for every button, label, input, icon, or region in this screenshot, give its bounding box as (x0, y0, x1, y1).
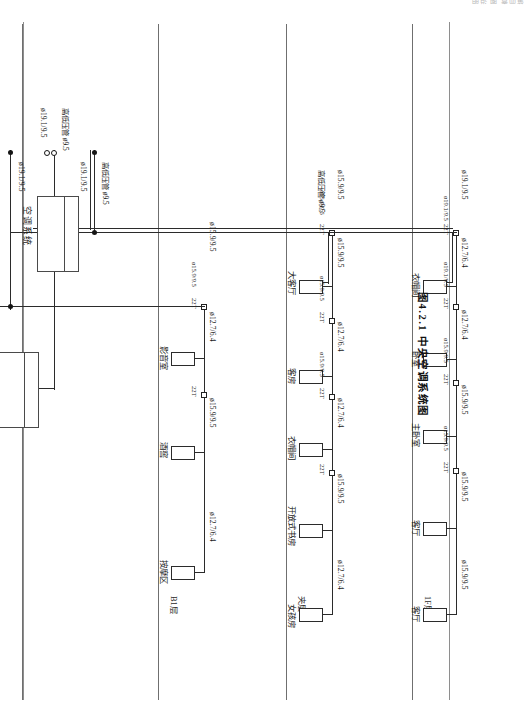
trunk-size-b1: ø15.9/9.5 (208, 222, 216, 252)
branch-tee-label-mezz-4: 22T (318, 464, 325, 475)
trunk-size-1f: ø19.1/9.5 (460, 170, 468, 200)
pipe-mezz-drop-4 (323, 530, 333, 531)
indoor-unit-mezz-3[interactable] (299, 443, 323, 457)
room-label-b1-1: 影音室 (159, 346, 167, 370)
indoor-unit-b1-3[interactable] (171, 566, 195, 580)
branch-tee-label-mezz-2: 22T (318, 312, 325, 323)
trunk-note-mezz: 高低压管 ø9.5 (318, 170, 325, 213)
trunk-size-plant-3: ø19.1/9.5 (17, 162, 25, 192)
riser-1f-main-2 (33, 228, 453, 229)
junction-node-riser-mezz (92, 230, 97, 235)
pipe-size-1f-4: ø15.9/9.5 (460, 472, 468, 502)
pipe-1f-drop-5 (447, 614, 457, 615)
room-label-1f-3: 主卧室 (411, 423, 419, 447)
room-label-mezz-5: 女孩房 (287, 604, 295, 628)
pipe-size-1f-2: ø12.7/6.4 (460, 310, 468, 340)
branch-tee-label-1f-3: 22T (442, 374, 449, 385)
branch-tee-b1-2 (201, 392, 207, 398)
pipe-size-mezz-4: ø15.9/9.5 (336, 474, 344, 504)
outdoor-unit-1-divider (64, 197, 65, 271)
pipe-mezz-riser (332, 232, 333, 615)
trunk-note-plant-1: 高低压管 ø9.5 (102, 162, 109, 205)
indoor-unit-1f-4[interactable] (423, 522, 447, 536)
branch-size-1f-3: ø15.9/9.5 (442, 338, 449, 363)
trunk-note-plant-2: 高低压管 ø9.5 (62, 108, 69, 151)
pipe-size-mezz-2: ø12.7/6.4 (336, 322, 344, 352)
riser-b1-main (0, 306, 205, 307)
outdoor-unit-2[interactable] (0, 352, 39, 428)
pipe-size-mezz-3: ø12.7/6.4 (336, 398, 344, 428)
pipe-size-b1-1: ø12.7/6.4 (208, 312, 216, 342)
figure-caption: 图4.2.1 中央空调系统图 (416, 292, 431, 417)
room-label-b1-3: 按摩区 (159, 560, 167, 584)
branch-size-1f-2: ø19.1/9.5 (442, 262, 449, 287)
room-label-mezz-4: 开放式书房 (287, 506, 295, 546)
branch-tee-label-1f-4: 22T (442, 462, 449, 473)
header-pipe-1 (94, 150, 95, 234)
branch-size-mezz-3: ø15.9/9.5 (318, 352, 325, 377)
junction-node-3 (44, 150, 50, 156)
floor-label-b1: B1层 (169, 596, 177, 614)
pipe-mezz-drop-3 (323, 449, 333, 450)
pipe-size-1f-3: ø15.9/9.5 (460, 385, 468, 415)
pipe-1f-riser (456, 232, 457, 615)
pipe-size-b1-3: ø12.7/6.4 (208, 512, 216, 542)
pipe-1f-drop-4 (447, 528, 457, 529)
indoor-unit-b1-1[interactable] (171, 352, 195, 366)
branch-tee-1f-3 (453, 380, 459, 386)
equipment-label-1: 空调系统 (22, 206, 31, 246)
header-pipe-3 (10, 150, 11, 310)
pipe-b1-riser (204, 306, 205, 573)
pipe-1f-riser-2 (452, 232, 453, 282)
pipe-b1-drop-3 (195, 572, 205, 573)
branch-size-1f-1: ø19.1/9.5 (442, 196, 449, 221)
junction-node-1 (92, 150, 97, 155)
running-header: 第四章 图 说明 (470, 0, 524, 6)
branch-tee-mezz-4 (329, 470, 335, 476)
branch-size-b1-1: ø15.9/9.5 (190, 262, 197, 287)
room-label-mezz-2: 客房 (287, 368, 295, 384)
room-label-mezz-3: 衣帽间 (287, 436, 295, 460)
branch-tee-label-mezz-3: 22T (318, 388, 325, 399)
indoor-unit-1f-5[interactable] (423, 608, 447, 622)
pipe-b1-drop-2 (195, 452, 205, 453)
indoor-unit-mezz-5[interactable] (299, 608, 323, 622)
pipe-size-mezz-5: ø12.7/6.4 (336, 560, 344, 590)
room-label-1f-5: 客厅 (411, 606, 419, 622)
room-label-b1-2: 酒窖 (159, 442, 167, 458)
branch-tee-1f-4 (453, 468, 459, 474)
branch-tee-mezz-3 (329, 394, 335, 400)
branch-tee-label-1f-2: 22T (442, 298, 449, 309)
outdoor-unit-1[interactable] (37, 196, 79, 272)
trunk-size-plant-1: ø19.1/9.5 (79, 162, 87, 192)
pipe-mezz-drop-5 (323, 614, 333, 615)
room-label-mezz-1: 大客厅 (287, 271, 295, 295)
branch-tee-mezz-2 (329, 318, 335, 324)
pipe-size-b1-2: ø15.9/9.5 (208, 398, 216, 428)
branch-tee-label-b1-2: 22T (190, 386, 197, 397)
indoor-unit-mezz-4[interactable] (299, 524, 323, 538)
header-drop-2 (39, 388, 55, 389)
junction-node-2 (51, 150, 57, 156)
indoor-unit-b1-2[interactable] (171, 446, 195, 460)
junction-node-riser-b1 (8, 304, 13, 309)
pipe-size-1f-5: ø15.9/9.5 (460, 560, 468, 590)
floor-divider-mezz (286, 24, 287, 700)
branch-size-mezz-2: ø15.9/9.5 (318, 276, 325, 301)
room-label-1f-4: 客厅 (411, 520, 419, 536)
trunk-size-plant-2: ø19.1/9.5 (39, 108, 47, 138)
pipe-mezz-riser-2 (328, 232, 329, 284)
pipe-size-1f-1: ø12.7/6.4 (460, 238, 468, 268)
trunk-size-mezz: ø15.9/9.5 (336, 170, 344, 200)
branch-size-1f-4: ø15.9/9.5 (442, 426, 449, 451)
outdoor-unit-2-divider (24, 353, 25, 427)
pipe-size-mezz-1: ø15.9/9.5 (336, 238, 344, 268)
branch-tee-1f-2 (453, 304, 459, 310)
pipe-b1-drop-1 (195, 358, 205, 359)
junction-node-4 (8, 150, 13, 155)
header-pipe-1b (90, 150, 91, 230)
